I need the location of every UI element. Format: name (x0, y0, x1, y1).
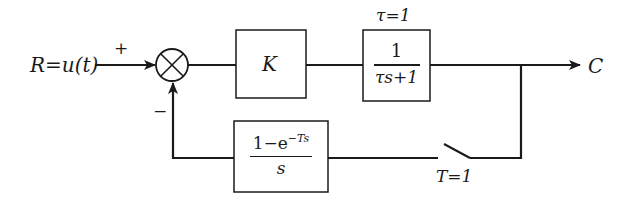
summing-junction (156, 49, 188, 81)
plant-numerator: 1 (391, 42, 402, 60)
zoh-numerator-main: 1−e (253, 133, 288, 153)
feedback-branch-line (470, 65, 521, 158)
feedback-return-line (173, 83, 234, 158)
sampler-switch (444, 144, 470, 158)
minus-sign: − (153, 101, 167, 121)
zoh-denominator: s (277, 160, 286, 177)
plus-sign: + (114, 38, 128, 58)
tau-parameter-label: τ=1 (376, 5, 410, 25)
plant-fraction-bar (374, 64, 420, 66)
plant-denominator: τs+1 (375, 69, 418, 86)
input-label: R=u(t) (30, 53, 98, 77)
gain-label: K (262, 52, 277, 76)
zoh-numerator-exponent: −Ts (288, 132, 309, 145)
zoh-fraction-bar (250, 156, 312, 158)
plant-transfer-function: 1 τs+1 (363, 42, 430, 86)
sampler-period-label: T=1 (436, 166, 472, 186)
zoh-numerator: 1−e−Ts (253, 133, 310, 152)
zoh-transfer-function: 1−e−Ts s (234, 133, 328, 177)
output-label: C (588, 54, 603, 78)
